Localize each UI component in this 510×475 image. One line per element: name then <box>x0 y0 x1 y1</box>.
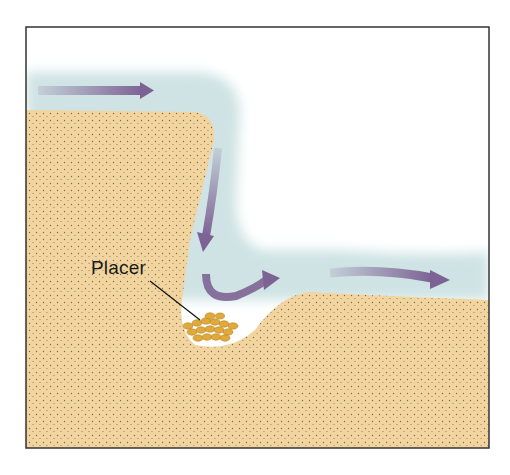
placer-label: Placer <box>91 257 146 279</box>
placer-diagram: Placer <box>0 0 510 475</box>
